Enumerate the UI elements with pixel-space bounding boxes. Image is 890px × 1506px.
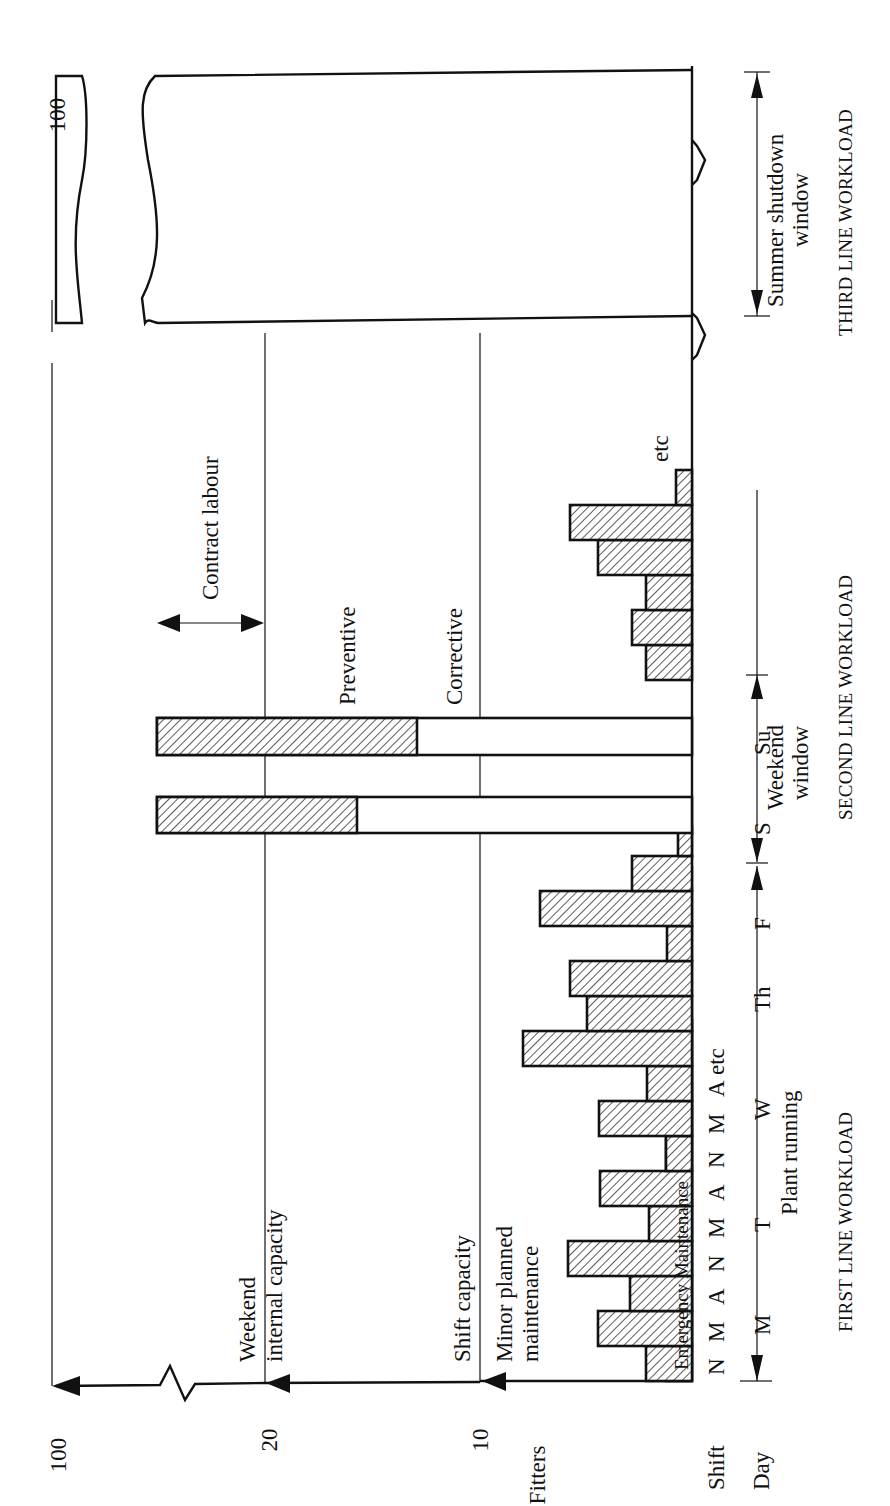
bar-w2-3 xyxy=(646,575,692,610)
weekend-window-label-2: window xyxy=(788,726,813,801)
day-label: M xyxy=(750,1315,775,1335)
bar-w2-5 xyxy=(570,505,692,540)
internal-capacity-label: internal capacity xyxy=(262,1209,287,1362)
bar-w2-2 xyxy=(632,610,692,645)
weekend-window-label-1: Weekend xyxy=(763,725,788,810)
plant-running-arrow xyxy=(740,863,772,1381)
bar-f-2 xyxy=(540,891,692,926)
second-line-workload-label: SECOND LINE WORKLOAD xyxy=(835,575,856,820)
tick-label-100: 100 xyxy=(46,1438,71,1473)
third-line-workload-label: THIRD LINE WORKLOAD xyxy=(835,109,856,336)
contract-labour-arrow xyxy=(157,614,264,632)
bar-wed-m xyxy=(599,1101,692,1136)
summer-window-label-2: window xyxy=(788,173,813,248)
contract-labour-label: Contract labour xyxy=(198,456,223,600)
shift-label: A xyxy=(704,1080,729,1097)
tick-label-20: 20 xyxy=(257,1429,282,1452)
shift-etc-label: etc xyxy=(704,1048,729,1075)
bar-sat-preventive xyxy=(157,797,357,833)
first-line-workload-label: FIRST LINE WORKLOAD xyxy=(835,1112,856,1332)
bar-wed-n xyxy=(666,1136,692,1171)
time-baseline xyxy=(692,66,705,1381)
shift-row-title: Shift xyxy=(704,1445,729,1490)
shift-label: N xyxy=(704,1151,729,1168)
plant-running-label: Plant running xyxy=(777,1090,802,1215)
shift-label: N xyxy=(704,1358,729,1375)
maintenance-workload-diagram: 100 20 10 Fitters 100 Weekend internal c… xyxy=(0,0,890,1506)
axis-title-fitters: Fitters xyxy=(525,1446,550,1505)
bar-wed-a xyxy=(647,1066,692,1101)
bar-f-1 xyxy=(667,926,692,961)
minor-planned-label-2: maintenance xyxy=(518,1246,543,1362)
bar-th-3 xyxy=(570,961,692,996)
shift-label: A xyxy=(704,1288,729,1305)
day-label: S xyxy=(750,822,775,835)
minor-planned-label-1: Minor planned xyxy=(492,1225,517,1362)
summer-shutdown-bar xyxy=(56,70,692,323)
day-label: T xyxy=(750,1218,775,1232)
bar-th-1 xyxy=(523,1031,692,1066)
following-week-bars xyxy=(570,470,692,680)
shift-label: A xyxy=(704,1184,729,1201)
day-label: F xyxy=(750,917,775,930)
day-label: W xyxy=(750,1098,775,1120)
bar-w2-1 xyxy=(646,645,692,680)
shift-labels: N M A N M A N M A etc xyxy=(704,1048,729,1375)
bar-th-2 xyxy=(587,996,692,1031)
second-line-bars xyxy=(157,718,692,833)
weekend-label: Weekend xyxy=(235,1277,260,1362)
top-100-label: 100 xyxy=(45,98,70,133)
day-row-title: Day xyxy=(749,1451,774,1490)
bar-sun-preventive xyxy=(157,718,417,755)
bar-w2-4 xyxy=(598,540,692,575)
emergency-maintenance-label: Emergency Maintenance xyxy=(671,1181,692,1370)
fitters-axis xyxy=(52,1366,692,1400)
corrective-label: Corrective xyxy=(442,608,467,705)
tick-arrow-20 xyxy=(266,1374,290,1393)
shift-label: M xyxy=(704,1322,729,1342)
first-line-bars xyxy=(523,827,692,1381)
tick-arrow-10 xyxy=(482,1372,506,1391)
day-label: Th xyxy=(750,986,775,1012)
shift-label: M xyxy=(704,1218,729,1238)
day-labels: M T W Th F S Su xyxy=(750,730,775,1335)
shift-label: M xyxy=(704,1114,729,1134)
shift-label: N xyxy=(704,1255,729,1272)
bar-f-3 xyxy=(632,856,692,891)
tick-arrow-100 xyxy=(52,1376,80,1396)
tick-label-10: 10 xyxy=(468,1429,493,1452)
preventive-label: Preventive xyxy=(335,607,360,705)
etc-bars-label: etc xyxy=(648,435,673,462)
summer-window-label-1: Summer shutdown xyxy=(763,133,788,307)
bar-w2-6 xyxy=(676,470,692,505)
shift-capacity-label: Shift capacity xyxy=(450,1234,475,1362)
